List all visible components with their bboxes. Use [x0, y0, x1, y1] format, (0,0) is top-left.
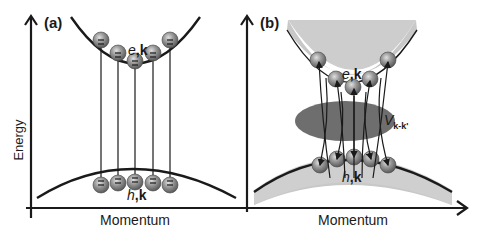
panel-tag-b: (b)	[260, 14, 279, 31]
y-axis-label: Energy	[11, 119, 26, 161]
panel-tag-a: (a)	[44, 14, 62, 31]
valence-label-a: h,k	[127, 187, 147, 203]
conduction-label-b: e,k	[342, 66, 362, 82]
conduction-label-a: e,k	[128, 42, 148, 58]
x-axis-label-a: Momentum	[100, 212, 170, 228]
valence-label-b: h,k	[342, 169, 362, 185]
x-axis-label-b: Momentum	[318, 212, 388, 228]
band-diagram: (a) e,k h,k Energy Momentum Vk-k'	[0, 0, 482, 235]
panel-b: Vk-k'	[240, 14, 467, 228]
panel-a: (a) e,k h,k Energy Momentum	[11, 14, 240, 228]
